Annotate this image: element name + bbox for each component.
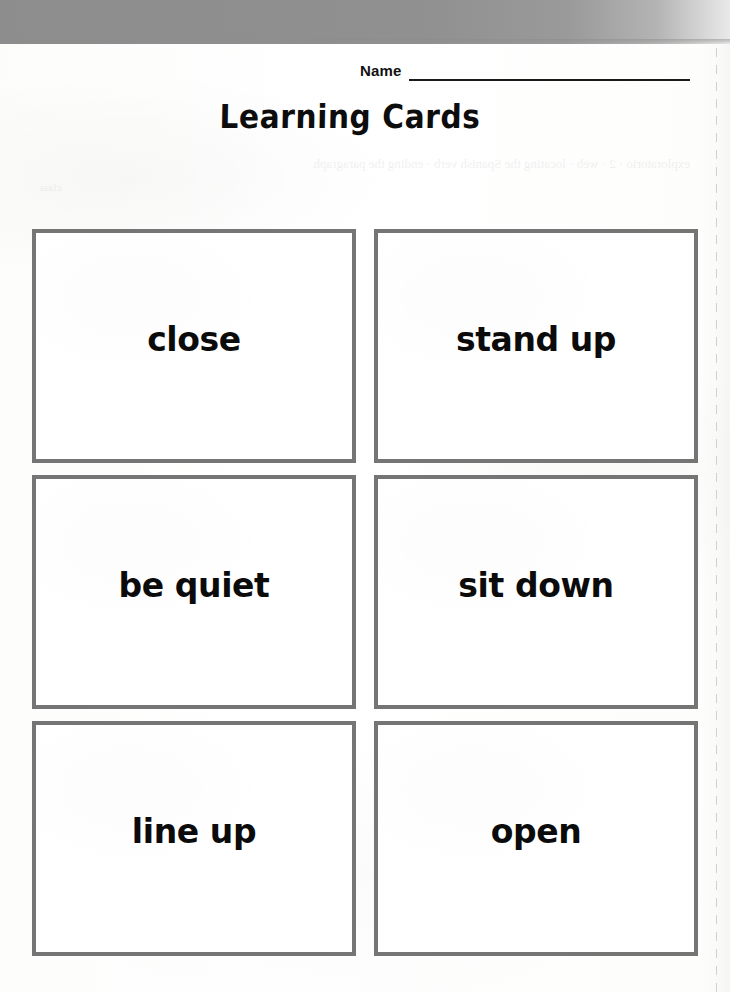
learning-card[interactable]: line up [32,721,356,956]
bleed-through-line-1: exploratorio · 2 · web · locating the Sp… [313,156,690,171]
learning-card-label: close [147,323,241,356]
page-title: Learning Cards [35,100,666,133]
learning-card[interactable]: sit down [374,475,698,709]
learning-card[interactable]: be quiet [32,475,356,709]
page-edge-shading [700,44,730,992]
name-label: Name [360,63,402,81]
learning-card-grid: close stand up be quiet sit down line up… [32,229,698,956]
learning-card-label: line up [132,815,256,848]
name-field[interactable]: Name [360,63,690,81]
learning-card[interactable]: close [32,229,356,463]
learning-card[interactable]: open [374,721,698,956]
name-write-in-line[interactable] [409,79,690,81]
learning-card-label: be quiet [119,569,270,602]
page-edge-dashed-line [716,48,717,992]
scanner-shadow-band [0,0,730,44]
learning-card[interactable]: stand up [374,229,698,463]
learning-card-label: stand up [456,323,616,356]
reverse-side-bleed-through: exploratorio · 2 · web · locating the Sp… [40,152,690,198]
learning-card-label: sit down [458,569,613,602]
worksheet-page: Name Learning Cards exploratorio · 2 · w… [0,0,730,992]
bleed-through-line-2: class [40,177,690,198]
learning-card-label: open [491,815,582,848]
